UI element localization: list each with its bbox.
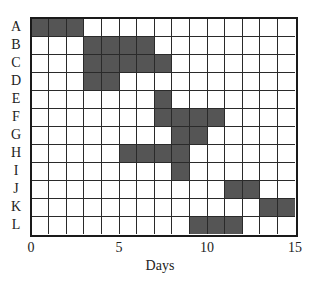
x-tick-label: 0 — [28, 240, 35, 256]
gantt-chart: ABCDEFGHIJKL 051015 Days — [0, 0, 311, 283]
task-label-h: H — [6, 144, 26, 162]
task-label-e: E — [6, 90, 26, 108]
task-label-c: C — [6, 54, 26, 72]
plot-area — [31, 18, 295, 234]
task-label-j: J — [6, 180, 26, 198]
task-label-k: K — [6, 198, 26, 216]
task-label-f: F — [6, 108, 26, 126]
plot-frame — [30, 17, 298, 237]
task-label-g: G — [6, 126, 26, 144]
x-axis-title: Days — [146, 258, 175, 274]
task-label-a: A — [6, 18, 26, 36]
x-tick-label: 15 — [288, 240, 302, 256]
task-label-l: L — [6, 216, 26, 234]
task-label-b: B — [6, 36, 26, 54]
task-label-d: D — [6, 72, 26, 90]
x-tick-label: 10 — [200, 240, 214, 256]
x-tick-label: 5 — [116, 240, 123, 256]
task-label-i: I — [6, 162, 26, 180]
